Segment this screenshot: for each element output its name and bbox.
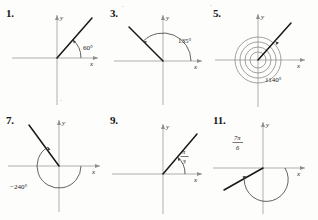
angle-plot-11: x y 7π 6 (209, 110, 315, 218)
figure-5: 5. x y 1140° (209, 3, 315, 111)
angle-label-7: −240° (10, 183, 27, 191)
y-axis-label-1: y (59, 14, 64, 22)
angle-plot-9: x y π 3 (106, 110, 212, 218)
angle-plot-7: x y −240° (2, 110, 108, 218)
scan-artifact (122, 6, 124, 7)
figure-9: 9. x y π 3 (106, 110, 212, 218)
exercise-page: 1. x y 60° 3. x y (0, 0, 318, 220)
figure-1: 1. x y 60° (2, 3, 108, 111)
angle-label-9-denominator: 3 (182, 158, 187, 165)
x-axis-label-5: x (296, 62, 301, 70)
figure-3: 3. x y 135° (106, 3, 212, 111)
figure-7: 7. x y −240° (2, 110, 108, 218)
angle-plot-3: x y 135° (106, 3, 212, 111)
x-axis-label-11: x (296, 170, 301, 178)
x-axis-label-9: x (193, 176, 198, 184)
y-axis-label-5: y (260, 13, 265, 21)
angle-label-11-denominator: 6 (236, 144, 240, 151)
x-axis-label-7: x (91, 168, 96, 176)
y-axis-label-11: y (265, 121, 270, 129)
scan-artifact (210, 5, 212, 6)
angle-label-11-numerator: 7π (234, 134, 241, 141)
figure-grid: 1. x y 60° 3. x y (0, 0, 318, 220)
angle-plot-5: x y 1140° (209, 3, 315, 111)
x-axis-label-3: x (193, 63, 198, 71)
angle-label-3: 135° (178, 37, 192, 45)
angle-label-1: 60° (83, 44, 93, 52)
figure-11: 11. x y 7π 6 (209, 110, 315, 218)
angle-label-5: 1140° (265, 76, 282, 84)
y-axis-label-7: y (61, 119, 66, 127)
y-axis-label-3: y (165, 14, 170, 22)
scan-artifact (60, 100, 62, 101)
x-axis-label-1: x (89, 60, 94, 68)
angle-label-9-numerator: π (182, 148, 186, 155)
y-axis-label-9: y (165, 123, 170, 131)
angle-plot-1: x y 60° (2, 3, 108, 111)
